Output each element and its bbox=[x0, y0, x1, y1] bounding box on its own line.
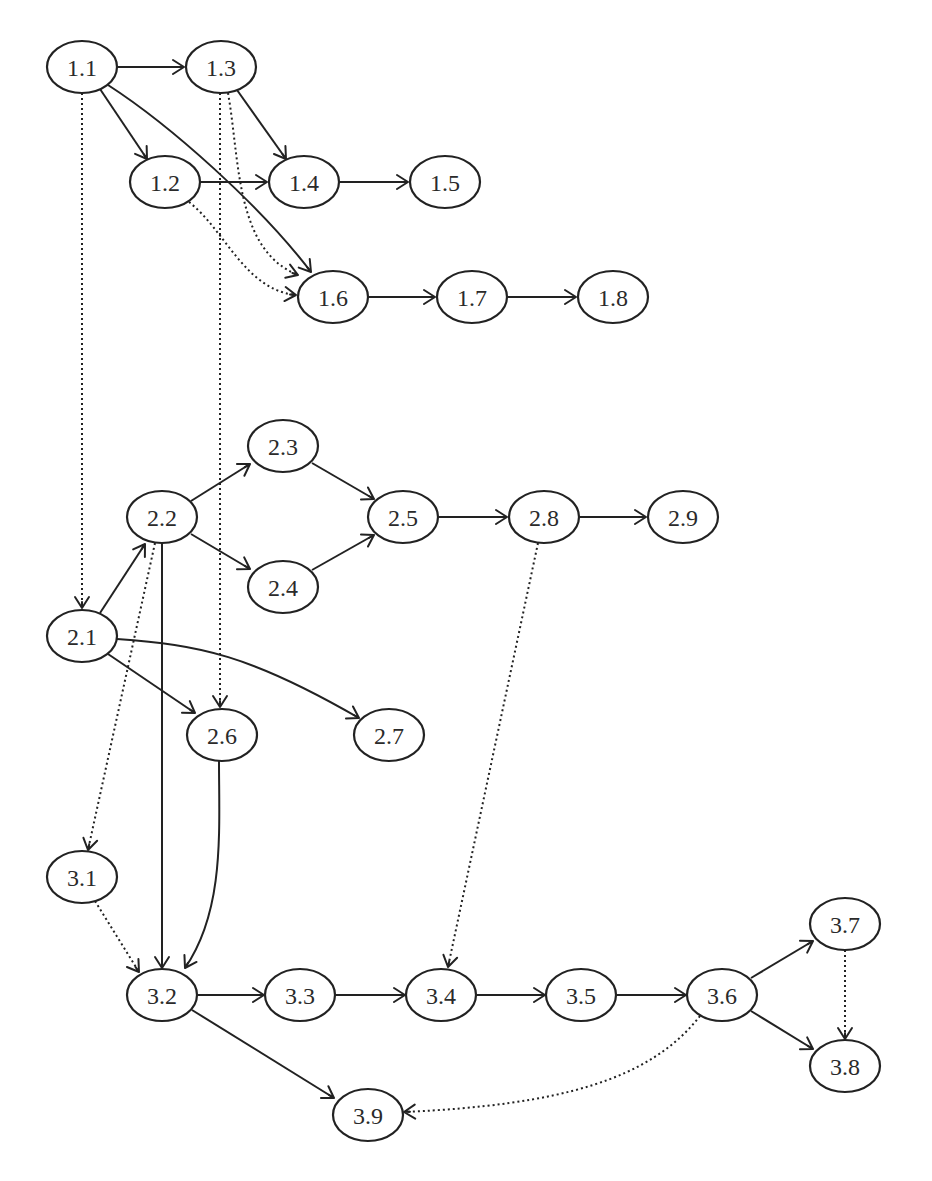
dotted-edge-line bbox=[404, 1016, 700, 1112]
node-1.2[interactable]: 1.2 bbox=[130, 156, 200, 208]
node-1.4[interactable]: 1.4 bbox=[269, 156, 339, 208]
edge-2.3-to-2.5 bbox=[312, 463, 378, 505]
node-label: 2.9 bbox=[668, 505, 698, 531]
solid-edge-line bbox=[751, 1011, 813, 1049]
node-label: 2.8 bbox=[529, 505, 559, 531]
arrowhead-icon bbox=[179, 955, 197, 972]
edge-3.1-to-3.2 bbox=[95, 901, 145, 976]
node-3.9[interactable]: 3.9 bbox=[333, 1089, 403, 1141]
node-2.5[interactable]: 2.5 bbox=[368, 491, 438, 543]
edge-2.4-to-2.5 bbox=[312, 529, 378, 570]
solid-edge-line bbox=[312, 463, 374, 499]
node-1.7[interactable]: 1.7 bbox=[437, 271, 507, 323]
dependency-graph: 1.11.31.21.41.51.61.71.82.32.22.52.82.92… bbox=[0, 0, 932, 1181]
node-label: 2.6 bbox=[207, 723, 237, 749]
arrowhead-icon bbox=[81, 838, 97, 852]
node-2.3[interactable]: 2.3 bbox=[248, 420, 318, 472]
edge-2.8-to-2.9 bbox=[579, 510, 646, 524]
node-2.1[interactable]: 2.1 bbox=[47, 610, 117, 662]
solid-edge-line bbox=[117, 639, 359, 718]
node-2.2[interactable]: 2.2 bbox=[127, 491, 197, 543]
edge-3.3-to-3.4 bbox=[335, 988, 405, 1002]
node-label: 1.2 bbox=[150, 170, 180, 196]
dotted-edge-line bbox=[88, 543, 155, 850]
node-2.4[interactable]: 2.4 bbox=[248, 561, 318, 613]
edge-2.1-to-2.2 bbox=[100, 540, 151, 613]
node-1.3[interactable]: 1.3 bbox=[186, 41, 256, 93]
node-1.1[interactable]: 1.1 bbox=[47, 41, 117, 93]
edge-2.2-to-3.1 bbox=[81, 543, 155, 851]
edge-1.4-to-1.5 bbox=[339, 175, 408, 189]
arrowhead-icon bbox=[237, 557, 254, 575]
dotted-edge-line bbox=[189, 202, 296, 295]
node-label: 1.7 bbox=[457, 285, 487, 311]
node-3.8[interactable]: 3.8 bbox=[810, 1040, 880, 1092]
node-1.5[interactable]: 1.5 bbox=[410, 156, 480, 208]
node-label: 1.6 bbox=[318, 285, 348, 311]
node-label: 1.5 bbox=[430, 170, 460, 196]
node-3.7[interactable]: 3.7 bbox=[810, 898, 880, 950]
edge-1.7-to-1.8 bbox=[507, 290, 576, 304]
solid-edge-line bbox=[185, 761, 219, 968]
edge-1.1-to-1.3 bbox=[117, 60, 184, 74]
node-label: 2.2 bbox=[147, 505, 177, 531]
edge-3.6-to-3.8 bbox=[751, 1011, 817, 1055]
node-label: 2.7 bbox=[374, 723, 404, 749]
node-label: 3.4 bbox=[426, 983, 456, 1009]
node-label: 3.6 bbox=[707, 983, 737, 1009]
arrowhead-icon bbox=[299, 259, 317, 276]
node-3.4[interactable]: 3.4 bbox=[406, 969, 476, 1021]
node-label: 1.4 bbox=[289, 170, 319, 196]
edge-1.1-to-2.1 bbox=[75, 93, 89, 608]
solid-edge-line bbox=[108, 654, 195, 713]
node-label: 1.3 bbox=[206, 55, 236, 81]
edge-3.4-to-3.5 bbox=[476, 988, 545, 1002]
node-label: 2.5 bbox=[388, 505, 418, 531]
node-label: 2.1 bbox=[67, 624, 97, 650]
edge-2.1-to-2.6 bbox=[108, 654, 199, 719]
node-1.8[interactable]: 1.8 bbox=[578, 271, 648, 323]
node-2.7[interactable]: 2.7 bbox=[354, 709, 424, 761]
edge-1.3-to-1.4 bbox=[237, 90, 292, 163]
edge-2.8-to-3.4 bbox=[441, 543, 538, 968]
node-label: 3.8 bbox=[830, 1054, 860, 1080]
edge-3.7-to-3.8 bbox=[838, 950, 852, 1039]
node-label: 1.1 bbox=[67, 55, 97, 81]
solid-edge-line bbox=[100, 544, 145, 613]
node-3.3[interactable]: 3.3 bbox=[265, 969, 335, 1021]
node-label: 2.3 bbox=[268, 434, 298, 460]
edge-1.2-to-1.6 bbox=[189, 202, 297, 302]
edge-1.3-to-2.6 bbox=[213, 93, 227, 707]
node-1.6[interactable]: 1.6 bbox=[298, 271, 368, 323]
edge-2.2-to-2.4 bbox=[191, 534, 254, 575]
node-2.6[interactable]: 2.6 bbox=[187, 709, 257, 761]
edge-3.6-to-3.9 bbox=[404, 1016, 700, 1119]
edge-2.2-to-2.3 bbox=[191, 458, 254, 501]
arrowhead-icon bbox=[284, 287, 296, 302]
edge-3.2-to-3.9 bbox=[192, 1010, 338, 1104]
node-3.2[interactable]: 3.2 bbox=[127, 969, 197, 1021]
solid-edge-line bbox=[312, 535, 374, 570]
edges-layer bbox=[75, 60, 852, 1119]
edge-2.2-to-3.2 bbox=[155, 543, 169, 968]
arrowhead-icon bbox=[321, 1086, 338, 1104]
node-label: 3.5 bbox=[566, 983, 596, 1009]
node-label: 3.1 bbox=[67, 865, 97, 891]
edge-3.5-to-3.6 bbox=[616, 988, 686, 1002]
node-label: 3.3 bbox=[285, 983, 315, 1009]
node-3.5[interactable]: 3.5 bbox=[546, 969, 616, 1021]
node-label: 3.2 bbox=[147, 983, 177, 1009]
node-label: 3.9 bbox=[353, 1103, 383, 1129]
arrowhead-icon bbox=[441, 955, 457, 969]
arrowhead-icon bbox=[133, 540, 151, 557]
edge-3.2-to-3.3 bbox=[197, 988, 264, 1002]
node-3.6[interactable]: 3.6 bbox=[687, 969, 757, 1021]
arrowhead-icon bbox=[213, 696, 227, 707]
edge-2.1-to-2.7 bbox=[117, 639, 363, 724]
node-3.1[interactable]: 3.1 bbox=[47, 851, 117, 903]
solid-edge-line bbox=[237, 90, 286, 159]
edge-3.6-to-3.7 bbox=[751, 935, 817, 978]
node-2.9[interactable]: 2.9 bbox=[648, 491, 718, 543]
node-2.8[interactable]: 2.8 bbox=[509, 491, 579, 543]
node-label: 3.7 bbox=[830, 912, 860, 938]
